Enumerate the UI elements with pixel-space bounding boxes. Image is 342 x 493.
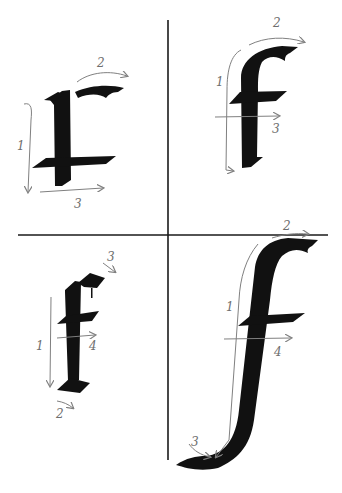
stroke-arrow-4 xyxy=(224,338,291,339)
stroke-number-1: 1 xyxy=(17,139,25,153)
stroke-number-2: 2 xyxy=(96,56,105,70)
stroke-arrow-3 xyxy=(103,263,115,272)
stroke-arrow-1 xyxy=(24,104,31,192)
stroke-number-1: 1 xyxy=(226,300,234,314)
panel-letter-r: 1 2 3 xyxy=(17,56,127,211)
letter-f-stem xyxy=(65,281,81,381)
stroke-arrow-2 xyxy=(77,73,127,82)
stroke-number-3: 3 xyxy=(74,197,82,211)
letter-r-stem xyxy=(50,90,71,186)
stroke-number-3: 3 xyxy=(191,435,199,449)
stroke-number-3: 3 xyxy=(272,122,280,136)
stroke-number-1: 1 xyxy=(216,75,224,89)
letter-f-crossbar xyxy=(229,91,287,104)
letter-f-drip xyxy=(91,288,93,298)
letter-f-body xyxy=(241,46,298,168)
panel-letter-f-long: 1 2 3 4 xyxy=(176,219,318,470)
stroke-arrow-3 xyxy=(40,188,103,192)
panel-letter-f: 1 2 3 xyxy=(215,16,304,171)
stroke-number-4: 4 xyxy=(88,339,97,353)
letter-r-arm xyxy=(75,86,124,98)
stroke-arrow-2 xyxy=(249,38,304,45)
stroke-number-2: 2 xyxy=(282,219,291,233)
letter-f-crossbar xyxy=(238,313,305,326)
stroke-arrow-1 xyxy=(50,297,51,386)
stroke-number-3: 3 xyxy=(107,250,115,264)
letter-r-foot xyxy=(32,156,116,168)
letter-f-foot xyxy=(57,378,90,393)
stroke-number-4: 4 xyxy=(273,345,282,359)
stroke-arrow-3 xyxy=(215,116,279,117)
letter-f-top-flag xyxy=(78,273,105,288)
panel-letter-f-blackletter: 1 2 3 4 xyxy=(36,250,115,421)
stroke-number-2: 2 xyxy=(272,16,281,30)
stroke-number-2: 2 xyxy=(55,407,64,421)
stroke-number-1: 1 xyxy=(36,339,44,353)
stroke-arrow-1 xyxy=(226,50,241,171)
stroke-order-diagram: 1 2 3 1 2 3 1 xyxy=(0,0,342,493)
